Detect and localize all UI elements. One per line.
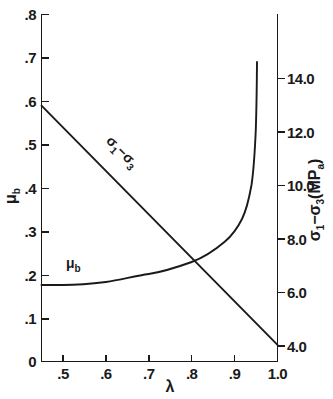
x-tick-label-0.8: .8 — [186, 365, 198, 382]
x-tick-label-1.0: 1.0 — [268, 365, 288, 382]
y-tick-label-0.5: .5 — [24, 136, 36, 153]
y-tick-label-0.2: .2 — [24, 267, 36, 284]
y2-tick-label-6.0: 6.0 — [287, 284, 307, 301]
svg-text:μb: μb — [2, 188, 22, 204]
y-tick-label-0.3: .3 — [24, 223, 36, 240]
y-axis-left-ticks — [42, 15, 49, 362]
x-tick-label-0.6: .6 — [100, 365, 112, 382]
y-tick-label-0.6: .6 — [24, 93, 36, 110]
y2-tick-label-12.0: 12.0 — [287, 124, 314, 141]
y2-title-sigma1: σ — [306, 230, 323, 241]
x-tick-label-0.5: .5 — [57, 365, 69, 382]
svg-text:σ1−σ3: σ1−σ3 — [101, 132, 142, 173]
y-tick-label-0: 0 — [28, 353, 36, 370]
curve-label-mu-sub-b: b — [75, 263, 81, 274]
x-tick-label-0.7: .7 — [143, 365, 155, 382]
curve-label-mu-b: μb — [66, 255, 81, 274]
series-sigma1-minus-sigma3-line — [42, 106, 278, 345]
x-tick-label-0.9: .9 — [229, 365, 241, 382]
x-axis-title: λ — [166, 378, 175, 395]
x-axis-ticks — [63, 355, 278, 362]
y-tick-label-0.4: .4 — [24, 180, 37, 197]
y-axis-right-ticks — [278, 79, 285, 347]
y-axis-right-title: σ1−σ3(MPa) — [306, 159, 326, 242]
y-axis-left-title: μb — [2, 188, 22, 204]
y2-tick-label-14.0: 14.0 — [287, 70, 314, 87]
y2-tick-label-4.0: 4.0 — [287, 338, 307, 355]
curve-label-mu-glyph: μ — [66, 255, 75, 271]
y-axis-left-tick-labels: .8 .7 .6 .5 .4 .3 .2 .1 0 — [24, 6, 37, 370]
y-axis-title-sub-b: b — [11, 188, 22, 194]
chart-plot-area: .8 .7 .6 .5 .4 .3 .2 .1 0 14.0 12.0 10.0… — [0, 0, 333, 399]
chart-figure: .8 .7 .6 .5 .4 .3 .2 .1 0 14.0 12.0 10.0… — [0, 0, 333, 399]
y-tick-label-0.7: .7 — [24, 49, 36, 66]
y-tick-label-0.1: .1 — [24, 310, 36, 327]
svg-text:σ1−σ3(MPa): σ1−σ3(MPa) — [306, 159, 326, 242]
y2-tick-label-8.0: 8.0 — [287, 231, 307, 248]
y-axis-title-mu: μ — [2, 194, 19, 204]
curve-label-sigma1-minus-sigma3: σ1−σ3 — [101, 132, 142, 173]
y-tick-label-0.8: .8 — [24, 6, 36, 23]
series-mu-b-curve — [42, 62, 258, 285]
svg-text:μb: μb — [66, 255, 81, 274]
